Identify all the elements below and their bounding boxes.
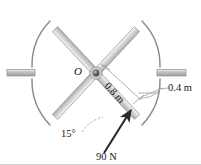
rim-arc-top-left xyxy=(32,21,50,67)
shaft-right xyxy=(157,70,186,77)
hub-highlight xyxy=(94,71,96,73)
hub-core xyxy=(93,70,100,77)
force-arrow-line xyxy=(104,110,131,153)
offset-dim-arc xyxy=(140,90,160,98)
center-hub xyxy=(90,67,102,79)
shaft-left xyxy=(7,70,35,77)
angle-arc-group xyxy=(82,117,103,132)
offset-dimension-group xyxy=(138,88,168,98)
offset-dim-leader xyxy=(160,88,168,89)
rim-arc-bottom-right xyxy=(142,79,160,125)
center-point-label: O xyxy=(74,66,82,77)
angle-label: 15° xyxy=(61,129,76,140)
force-label: 90 N xyxy=(96,152,117,163)
mechanics-figure: O 0.8 m 0.4 m 15° 90 N xyxy=(0,0,201,165)
offset-dimension-label: 0.4 m xyxy=(168,83,192,94)
force-arrow-group xyxy=(104,110,131,153)
angle-arc xyxy=(82,117,103,132)
rim-arc-bottom-left xyxy=(32,79,50,125)
rim-arc-top-right xyxy=(142,21,160,67)
